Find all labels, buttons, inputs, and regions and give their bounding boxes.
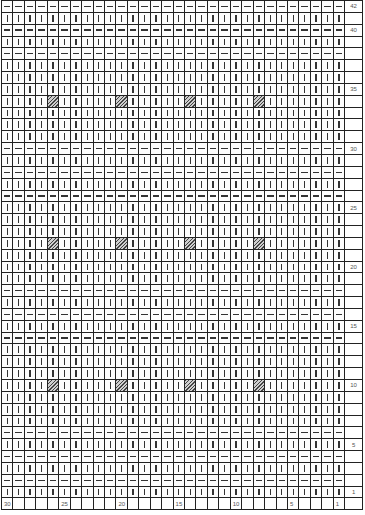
stitch-knit [162,368,173,380]
stitch-knit [174,273,185,285]
stitch-knit [139,13,150,25]
stitch-purl [94,285,105,297]
stitch-purl [116,475,127,487]
stitch-knit [25,404,36,416]
stitch-knit [59,202,70,214]
stitch-knit [299,108,310,120]
stitch-knit [71,368,82,380]
stitch-knit [59,273,70,285]
column-number-label [277,498,288,510]
stitch-knit [116,108,127,120]
stitch-knit [254,416,265,428]
stitch-knit [208,202,219,214]
stitch-purl [242,1,253,13]
stitch-knit [48,321,59,333]
stitch-knit [174,37,185,49]
stitch-purl [231,167,242,179]
stitch-knit [48,250,59,262]
stitch-knit [334,214,345,226]
stitch-purl [185,48,196,60]
stitch-purl [13,143,24,155]
stitch-purl [139,475,150,487]
stitch-purl [128,309,139,321]
stitch-purl [196,285,207,297]
stitch-purl [105,285,116,297]
stitch-purl [185,167,196,179]
stitch-purl [219,25,230,37]
stitch-knit [59,96,70,108]
stitch-knit [231,84,242,96]
stitch-knit [242,214,253,226]
stitch-knit [13,463,24,475]
stitch-knit [277,179,288,191]
stitch-purl [25,191,36,203]
stitch-purl [277,1,288,13]
row-number-label [345,155,363,167]
stitch-knit [151,250,162,262]
stitch-knit [254,439,265,451]
stitch-knit [105,250,116,262]
stitch-knit [13,321,24,333]
stitch-purl [231,1,242,13]
stitch-purl [196,333,207,345]
stitch-knit [71,380,82,392]
stitch-knit [196,368,207,380]
stitch-knit [48,119,59,131]
stitch-purl [25,143,36,155]
stitch-knit [185,356,196,368]
stitch-knit [185,108,196,120]
stitch-knit [25,262,36,274]
stitch-knit [231,356,242,368]
stitch-knit [311,463,322,475]
stitch-purl [59,427,70,439]
stitch-purl [162,427,173,439]
stitch-knit [219,72,230,84]
stitch-knit [59,297,70,309]
stitch-knit [265,108,276,120]
stitch-knit [48,404,59,416]
stitch-purl [265,451,276,463]
stitch-knit [13,238,24,250]
stitch-purl [36,1,47,13]
stitch-purl [82,451,93,463]
stitch-purl [265,143,276,155]
stitch-knit [288,238,299,250]
stitch-knit [322,84,333,96]
stitch-purl [48,191,59,203]
stitch-knit [242,84,253,96]
stitch-knit [231,463,242,475]
stitch-knit [162,404,173,416]
stitch-knit [2,356,13,368]
stitch-knit [196,119,207,131]
stitch-purl [116,333,127,345]
stitch-purl [139,285,150,297]
stitch-purl [208,143,219,155]
stitch-purl [2,25,13,37]
stitch-knit [151,262,162,274]
stitch-knit [71,262,82,274]
stitch-knit [254,297,265,309]
stitch-knit [13,297,24,309]
stitch-knit [265,214,276,226]
stitch-knit [36,226,47,238]
stitch-knit [196,131,207,143]
stitch-purl [277,427,288,439]
column-number-label [208,498,219,510]
stitch-knit [162,72,173,84]
stitch-knit [162,119,173,131]
stitch-knit [219,37,230,49]
stitch-knit [2,226,13,238]
stitch-hatched [48,238,59,250]
stitch-knit [185,439,196,451]
stitch-knit [2,368,13,380]
stitch-hatched [185,96,196,108]
stitch-knit [334,202,345,214]
stitch-purl [208,1,219,13]
stitch-knit [48,463,59,475]
stitch-knit [59,439,70,451]
stitch-knit [13,226,24,238]
stitch-purl [277,143,288,155]
stitch-knit [299,297,310,309]
stitch-knit [299,155,310,167]
stitch-knit [219,321,230,333]
